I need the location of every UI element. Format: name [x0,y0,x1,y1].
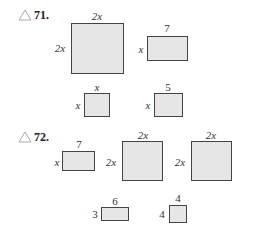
top-dimension-label: 6 [112,196,118,207]
top-dimension-label: 7 [164,23,170,34]
top-dimension-label: 5 [165,82,171,93]
top-dimension-label: 4 [175,193,181,204]
top-dimension-label: 2x [206,130,216,141]
top-dimension-label: x [95,82,100,93]
rectangle-shape [154,93,183,117]
square-shape [84,93,110,117]
side-dimension-label: 3 [92,209,98,220]
rectangle-shape [101,207,129,221]
top-dimension-label: 2x [138,130,148,141]
side-dimension-label: 2x [175,157,185,168]
square-shape [71,23,124,74]
side-dimension-label: 4 [159,209,165,220]
rectangle-shape [147,36,188,61]
top-dimension-label: 2x [92,11,102,22]
side-dimension-label: x [55,157,60,168]
side-dimension-label: x [76,100,81,111]
square-shape [191,141,232,181]
side-dimension-label: 2x [106,157,116,168]
problem-number: 71. [34,9,49,21]
side-dimension-label: x [139,44,144,55]
rectangle-shape [62,151,95,171]
square-shape [122,141,163,181]
side-dimension-label: 2x [55,43,65,54]
side-dimension-label: x [146,100,151,111]
top-dimension-label: 7 [76,139,82,150]
problem-number: 72. [34,131,49,143]
square-shape [169,205,187,223]
